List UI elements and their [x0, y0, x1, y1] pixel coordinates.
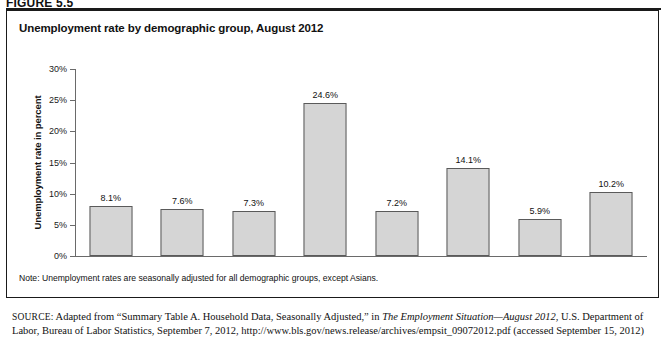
bar-value-label: 8.1%: [100, 193, 121, 203]
bar[interactable]: [375, 211, 418, 256]
bar[interactable]: [590, 192, 633, 256]
source-label: SOURCE:: [12, 312, 54, 322]
bar-slot: 5.9%: [504, 69, 576, 256]
bar[interactable]: [232, 211, 275, 257]
x-label-slot: Total(16 years and over): [75, 255, 147, 256]
bar-value-label: 10.2%: [598, 179, 624, 189]
bar-value-label: 14.1%: [455, 155, 481, 165]
chart-title: Unemployment rate by demographic group, …: [19, 22, 323, 34]
bar-value-label: 24.6%: [312, 90, 338, 100]
bar-slot: 24.6%: [290, 69, 362, 256]
source-text-part1: Adapted from “Summary Table A. Household…: [54, 311, 383, 322]
source-note: SOURCE: Adapted from “Summary Table A. H…: [12, 310, 660, 338]
bar[interactable]: [161, 209, 204, 256]
plot-area: 0%5%10%15%20%25%30% 8.1%7.6%7.3%24.6%7.2…: [75, 69, 647, 256]
source-publication-title: The Employment Situation—August 2012: [382, 311, 556, 322]
bar-slot: 7.3%: [218, 69, 290, 256]
bar-slot: 8.1%: [75, 69, 147, 256]
chart-note: Note: Unemployment rates are seasonally …: [19, 273, 378, 283]
y-axis-tick-label: 0%: [54, 251, 67, 261]
y-axis-tick-label: 25%: [49, 95, 67, 105]
bar-slot: 7.2%: [361, 69, 433, 256]
bar-slot: 10.2%: [576, 69, 648, 256]
x-label-slot: White: [361, 255, 433, 256]
x-label-slot: Hispanic orLatino ethnicity: [576, 255, 648, 256]
x-axis-line: [75, 256, 647, 257]
bar-value-label: 5.9%: [529, 206, 550, 216]
bar[interactable]: [518, 219, 561, 256]
x-label-slot: Asian: [504, 255, 576, 256]
x-label-slot: Adult women(20 years and over): [218, 255, 290, 256]
x-label-slot: Black or AfricanAmerican: [433, 255, 505, 256]
bar[interactable]: [304, 103, 347, 256]
y-axis-tick-label: 10%: [49, 189, 67, 199]
chart-container: Unemployment rate by demographic group, …: [6, 10, 659, 298]
y-axis-tick-mark: [70, 256, 75, 257]
y-axis-tick: 0%: [75, 256, 76, 257]
bar-value-label: 7.2%: [386, 198, 407, 208]
bar[interactable]: [89, 206, 132, 256]
y-axis-tick-label: 30%: [49, 64, 67, 74]
x-label-slot: Adult men(20 years and over): [147, 255, 219, 256]
x-label-slot: Teenagers(16 to 19 years): [290, 255, 362, 256]
y-axis-tick-label: 5%: [54, 220, 67, 230]
y-axis-tick-label: 20%: [49, 126, 67, 136]
bar-value-label: 7.6%: [172, 196, 193, 206]
bar-slot: 14.1%: [433, 69, 505, 256]
y-axis-tick-label: 15%: [49, 158, 67, 168]
bar[interactable]: [447, 168, 490, 256]
y-axis-title: Unemployment rate in percent: [31, 69, 45, 256]
bar-value-label: 7.3%: [243, 198, 264, 208]
bar-slot: 7.6%: [147, 69, 219, 256]
